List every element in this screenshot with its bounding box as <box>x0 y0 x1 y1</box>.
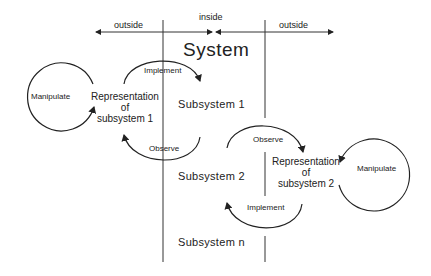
left-manipulate-label: Manipulate <box>31 92 70 101</box>
right-rep-line3: subsystem 2 <box>269 178 343 189</box>
outside-left-label: outside <box>114 20 143 30</box>
left-rep-line3: subsystem 1 <box>90 113 160 124</box>
right-manipulate-loop <box>339 139 410 211</box>
right-representation-label: Representation of subsystem 2 <box>269 156 343 189</box>
right-observe-label: Observe <box>253 135 283 144</box>
right-rep-line1: Representation <box>269 156 343 167</box>
subsystem-2-label: Subsystem 2 <box>178 170 245 182</box>
subsystem-n-label: Subsystem n <box>178 236 245 248</box>
inside-label: inside <box>199 12 223 22</box>
left-rep-line2: of <box>90 102 160 113</box>
right-implement-label: Implement <box>247 203 284 212</box>
left-representation-label: Representation of subsystem 1 <box>90 91 160 124</box>
subsystem-1-label: Subsystem 1 <box>178 98 245 110</box>
right-manipulate-label: Manipulate <box>357 164 396 173</box>
left-observe-label: Observe <box>149 144 179 153</box>
outside-right-label: outside <box>279 20 308 30</box>
right-rep-line2: of <box>269 167 343 178</box>
system-title: System <box>183 39 249 61</box>
left-rep-line1: Representation <box>90 91 160 102</box>
left-implement-label: Implement <box>144 66 181 75</box>
